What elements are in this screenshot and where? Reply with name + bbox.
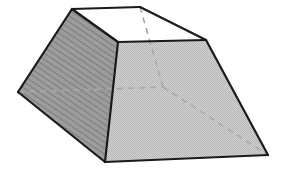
geometric-solid-figure: [0, 0, 285, 172]
right-face: [105, 40, 268, 162]
